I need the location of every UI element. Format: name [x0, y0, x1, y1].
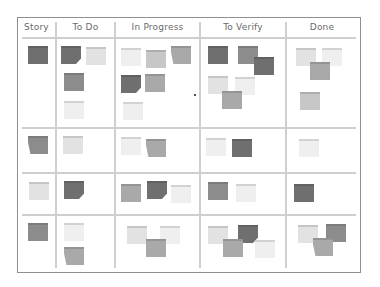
task-card[interactable] [146, 50, 166, 68]
story-card[interactable] [28, 223, 48, 241]
task-card[interactable] [146, 139, 166, 157]
task-card[interactable] [299, 139, 319, 157]
task-card[interactable] [236, 184, 256, 202]
task-card[interactable] [61, 46, 81, 64]
task-card[interactable] [63, 136, 83, 154]
column-divider [55, 22, 57, 268]
marker-dot [194, 94, 196, 96]
task-card[interactable] [171, 185, 191, 203]
task-card[interactable] [64, 247, 84, 265]
story-card[interactable] [28, 136, 48, 154]
row-divider [22, 214, 356, 216]
task-card[interactable] [123, 102, 143, 120]
column-header-done: Done [287, 22, 357, 32]
column-divider [114, 22, 116, 268]
task-card[interactable] [310, 62, 330, 80]
column-header-to-verify: To Verify [201, 22, 285, 32]
task-card[interactable] [206, 138, 226, 156]
column-header-in-progress: In Progress [116, 22, 199, 32]
task-card[interactable] [121, 48, 141, 66]
story-card[interactable] [28, 46, 48, 64]
task-card[interactable] [223, 239, 243, 257]
column-header-todo: To Do [57, 22, 114, 32]
task-card[interactable] [146, 239, 166, 257]
column-divider [285, 22, 287, 268]
task-card[interactable] [121, 137, 141, 155]
column-divider [199, 22, 201, 268]
story-card[interactable] [29, 182, 49, 200]
row-divider [22, 172, 356, 174]
task-card[interactable] [127, 226, 147, 244]
task-card[interactable] [145, 74, 165, 92]
task-card[interactable] [313, 238, 333, 256]
column-header-story: Story [18, 22, 55, 32]
task-card[interactable] [255, 240, 275, 258]
task-card[interactable] [171, 46, 191, 64]
header-divider [22, 37, 356, 39]
task-card[interactable] [121, 75, 141, 93]
row-divider [22, 127, 356, 129]
task-card[interactable] [254, 57, 274, 75]
task-card[interactable] [64, 181, 84, 199]
task-card[interactable] [300, 92, 320, 110]
task-card[interactable] [294, 184, 314, 202]
task-card[interactable] [147, 181, 167, 199]
task-card[interactable] [64, 73, 84, 91]
task-card[interactable] [208, 46, 228, 64]
task-card[interactable] [64, 223, 84, 241]
task-card[interactable] [222, 91, 242, 109]
task-card[interactable] [121, 184, 141, 202]
task-card[interactable] [208, 182, 228, 200]
task-card[interactable] [86, 47, 106, 65]
task-card[interactable] [64, 101, 84, 119]
task-card[interactable] [232, 139, 252, 157]
